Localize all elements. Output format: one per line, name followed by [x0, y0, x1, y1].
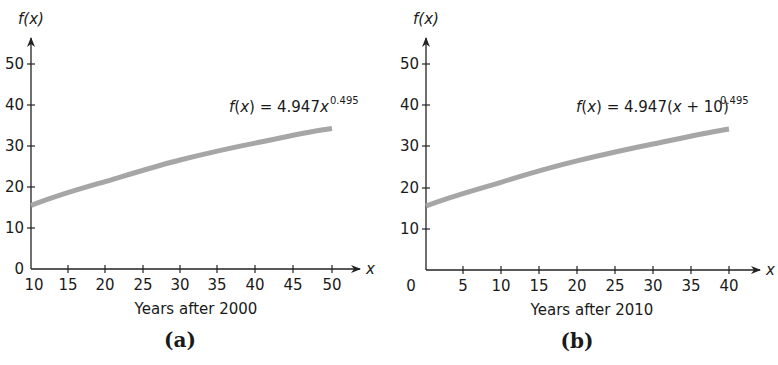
panel-label-b: (b)	[561, 329, 594, 353]
svg-text:45: 45	[283, 276, 302, 294]
svg-text:20: 20	[5, 178, 24, 196]
svg-text:15: 15	[529, 277, 548, 295]
equation-a-exponent: 0.495	[330, 95, 359, 106]
svg-text:25: 25	[605, 277, 624, 295]
svg-text:30: 30	[170, 276, 189, 294]
svg-text:40: 40	[719, 277, 738, 295]
x-axis-title-a: Years after 2000	[134, 300, 258, 318]
svg-text:0: 0	[14, 260, 24, 278]
svg-text:20: 20	[95, 276, 114, 294]
y-axis-title-a: f(x)	[18, 10, 44, 28]
svg-text:30: 30	[643, 277, 662, 295]
svg-text:40: 40	[245, 276, 264, 294]
svg-text:10: 10	[400, 220, 419, 238]
y-tick-labels-b: 10 20 30 40 50	[400, 55, 419, 238]
svg-text:50: 50	[5, 55, 24, 73]
x-tick-labels-b: 0 5 10 15 20 25 30 35 40	[406, 277, 738, 295]
svg-text:15: 15	[58, 276, 77, 294]
svg-text:40: 40	[400, 96, 419, 114]
svg-text:5: 5	[458, 277, 468, 295]
svg-text:30: 30	[400, 137, 419, 155]
panel-label-a: (a)	[164, 328, 196, 352]
svg-text:50: 50	[400, 55, 419, 73]
y-axis-title-b: f(x)	[413, 10, 439, 28]
curve-a	[31, 128, 332, 205]
x-axis-symbol-b: x	[765, 261, 775, 279]
curve-b	[426, 129, 729, 206]
equation-b: f(x) = 4.947(x + 10)	[576, 98, 729, 116]
svg-text:35: 35	[207, 276, 226, 294]
x-axis-symbol-a: x	[365, 260, 375, 278]
y-tick-labels-a: 0 10 20 30 40 50	[5, 55, 24, 278]
svg-text:35: 35	[681, 277, 700, 295]
svg-text:50: 50	[322, 276, 341, 294]
equation-b-exponent: 0.495	[720, 95, 749, 106]
svg-text:10: 10	[5, 219, 24, 237]
svg-text:10: 10	[491, 277, 510, 295]
svg-text:25: 25	[133, 276, 152, 294]
svg-text:40: 40	[5, 96, 24, 114]
figure: f(x) x 0 10 20 30 40 50	[0, 0, 778, 365]
equation-a: f(x) = 4.947x	[229, 98, 329, 116]
x-tick-labels-a: 10 15 20 25 30 35 40 45 50	[24, 276, 341, 294]
svg-text:20: 20	[400, 179, 419, 197]
svg-text:20: 20	[567, 277, 586, 295]
x-axis-title-b: Years after 2010	[530, 301, 654, 319]
chart-b: f(x) x 10 20 30 40 50	[400, 10, 775, 353]
svg-text:30: 30	[5, 137, 24, 155]
svg-text:10: 10	[24, 276, 43, 294]
chart-a: f(x) x 0 10 20 30 40 50	[5, 10, 375, 352]
svg-text:0: 0	[406, 277, 416, 295]
